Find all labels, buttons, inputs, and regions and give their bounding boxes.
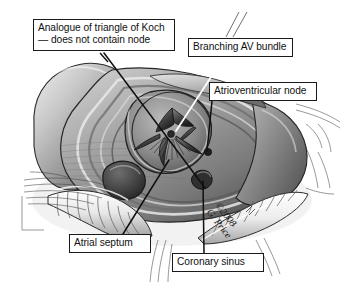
anatomical-figure: Analogue of triangle of Koch — does not … bbox=[0, 0, 344, 285]
leader-line-avbundle-top bbox=[226, 12, 247, 37]
label-analogue-of-triangle-of-koch: Analogue of triangle of Koch — does not … bbox=[33, 19, 175, 51]
av-node-marker bbox=[204, 148, 211, 155]
label-branching-av-bundle: Branching AV bundle bbox=[188, 38, 293, 57]
leader-line-coronary-sinus bbox=[203, 181, 204, 253]
label-atrioventricular-node: Atrioventricular node bbox=[209, 82, 317, 101]
fossa-ovalis bbox=[103, 161, 146, 199]
valve-centroid bbox=[168, 131, 175, 138]
label-coronary-sinus: Coronary sinus bbox=[172, 253, 264, 272]
label-atrial-septum: Atrial septum bbox=[69, 234, 151, 253]
